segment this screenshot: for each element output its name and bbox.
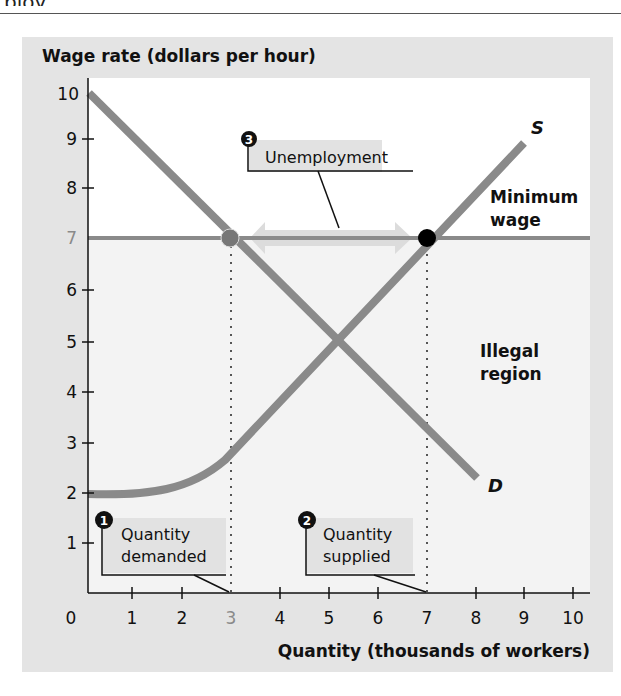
svg-text:10: 10 (562, 608, 584, 628)
svg-text:5: 5 (66, 332, 77, 352)
svg-text:2: 2 (66, 483, 77, 503)
svg-text:3: 3 (245, 133, 253, 147)
svg-text:8: 8 (66, 178, 77, 198)
svg-text:Quantity: Quantity (121, 525, 190, 544)
demand-label: D (488, 475, 503, 496)
x-tick-3-highlight: 3 (226, 608, 237, 628)
svg-text:5: 5 (324, 608, 335, 628)
svg-text:9: 9 (519, 608, 530, 628)
svg-text:supplied: supplied (323, 547, 391, 566)
svg-text:3: 3 (66, 433, 77, 453)
svg-text:8: 8 (471, 608, 482, 628)
svg-text:2: 2 (177, 608, 188, 628)
quantity-supplied-point (418, 229, 436, 247)
quantity-demanded-point (221, 229, 239, 247)
x-tick-labels: 0 1 2 3 4 5 6 7 8 9 10 (66, 608, 584, 628)
svg-text:10: 10 (57, 84, 79, 104)
svg-text:demanded: demanded (121, 547, 207, 566)
illegal-region-label-line2: region (480, 364, 542, 384)
svg-text:4: 4 (275, 608, 286, 628)
y-tick-labels: 1 2 3 4 5 6 7 8 9 10 (57, 84, 79, 553)
svg-text:2: 2 (303, 514, 311, 528)
svg-text:4: 4 (66, 382, 77, 402)
callout-unemployment-text: Unemployment (265, 148, 388, 167)
svg-text:Quantity: Quantity (323, 525, 392, 544)
svg-text:9: 9 (66, 129, 77, 149)
supply-label: S (531, 117, 544, 138)
svg-text:1: 1 (66, 533, 77, 553)
y-tick-7-highlight: 7 (66, 228, 77, 248)
minimum-wage-label-line2: wage (490, 210, 541, 230)
svg-text:6: 6 (66, 280, 77, 300)
svg-text:0: 0 (66, 608, 77, 628)
illegal-region-label-line1: Illegal (480, 341, 539, 361)
minimum-wage-label-line1: Minimum (490, 187, 578, 207)
svg-text:6: 6 (373, 608, 384, 628)
y-axis-label: Wage rate (dollars per hour) (42, 46, 316, 66)
x-axis-label: Quantity (thousands of workers) (278, 641, 590, 661)
svg-text:7: 7 (422, 608, 433, 628)
chart-svg: Wage rate (dollars per hour) (0, 0, 621, 696)
svg-text:1: 1 (100, 514, 108, 528)
svg-text:1: 1 (127, 608, 138, 628)
